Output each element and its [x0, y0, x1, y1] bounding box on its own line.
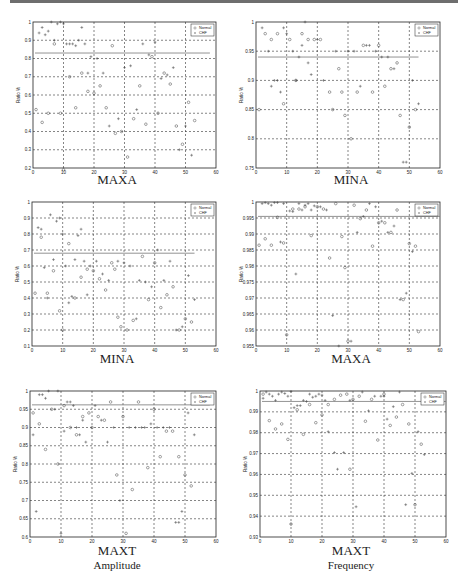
svg-text:0.65: 0.65: [19, 516, 28, 521]
svg-text:1: 1: [255, 389, 258, 394]
series-normal: [262, 393, 423, 526]
svg-text:0.7: 0.7: [25, 74, 32, 79]
scatter-chart: 01020304050600.930.940.950.960.970.980.9…: [234, 385, 468, 547]
svg-text:0.96: 0.96: [245, 328, 254, 333]
scatter-chart: 01020304050600.750.80.850.90.951Ratio %N…: [234, 0, 468, 175]
legend-label: Normal: [199, 26, 211, 30]
svg-text:0.8: 0.8: [24, 232, 31, 237]
series-chf: [32, 390, 196, 535]
y-axis-label: Ratio %: [239, 266, 244, 282]
figure-caption: MAXA: [234, 352, 468, 365]
svg-text:0.6: 0.6: [22, 535, 29, 540]
svg-text:0.98: 0.98: [249, 430, 258, 435]
series-normal: [32, 401, 193, 535]
svg-text:0.4: 0.4: [24, 296, 31, 301]
scatter-chart: 01020304050600.20.30.40.50.60.70.80.91Ra…: [0, 0, 234, 175]
svg-text:0.95: 0.95: [245, 49, 254, 54]
y-axis-label: Ratio %: [16, 87, 21, 103]
grid-lines: [33, 22, 216, 168]
chart-legend: NormalCHF: [421, 393, 444, 405]
svg-text:0.75: 0.75: [245, 166, 254, 171]
legend-label: Normal: [199, 206, 211, 210]
figure-caption: MAXT: [0, 544, 234, 557]
y-axis-label: Ratio %: [15, 266, 20, 282]
svg-text:0.3: 0.3: [25, 147, 32, 152]
legend-label: CHF: [199, 400, 207, 404]
svg-text:1: 1: [28, 20, 31, 25]
legend-label: Normal: [199, 395, 211, 399]
y-axis-label: Ratio %: [13, 456, 18, 472]
svg-text:0.96: 0.96: [249, 472, 258, 477]
scatter-chart: 01020304050600.60.650.70.750.80.850.90.9…: [0, 385, 234, 547]
svg-text:0.2: 0.2: [25, 166, 32, 171]
svg-text:0.9: 0.9: [22, 425, 29, 430]
svg-text:0.5: 0.5: [25, 111, 32, 116]
figure-subcaption: Amplitude: [0, 559, 234, 571]
chart-legend: NormalCHF: [191, 204, 214, 216]
figure-caption: MAXA: [0, 173, 234, 186]
svg-text:0.9: 0.9: [24, 216, 31, 221]
svg-text:0.99: 0.99: [245, 232, 254, 237]
tick-labels: 01020304050600.60.650.70.750.80.850.90.9…: [19, 389, 219, 545]
svg-text:0.995: 0.995: [243, 216, 255, 221]
legend-label: CHF: [423, 211, 431, 215]
figure-caption: MAXT: [234, 544, 468, 557]
chart-legend: NormalCHF: [415, 204, 438, 216]
grid-lines: [260, 391, 446, 537]
svg-text:0.6: 0.6: [25, 93, 32, 98]
svg-text:0.95: 0.95: [19, 407, 28, 412]
svg-text:0.98: 0.98: [245, 264, 254, 269]
svg-text:0.985: 0.985: [243, 248, 255, 253]
chart-legend: NormalCHF: [191, 393, 214, 405]
figure-panel-maxa-2: 01020304050600.9550.960.9650.970.9750.98…: [234, 190, 468, 385]
figure-panel-mina-1: 01020304050600.750.80.850.90.951Ratio %N…: [234, 0, 468, 190]
series-normal: [35, 43, 196, 172]
svg-text:0.9: 0.9: [25, 38, 32, 43]
series-chf: [38, 21, 193, 157]
scatter-chart: 01020304050600.9550.960.9650.970.9750.98…: [234, 190, 468, 355]
legend-label: Normal: [423, 26, 435, 30]
series-normal: [258, 32, 417, 140]
figure-panel-mina-2: 01020304050600.10.20.30.40.50.60.70.80.9…: [0, 190, 234, 385]
y-axis-label: Ratio %: [243, 456, 248, 472]
tick-labels: 01020304050600.750.80.850.90.951: [245, 20, 443, 176]
series-chf: [262, 390, 426, 508]
svg-text:0.6: 0.6: [24, 264, 31, 269]
svg-text:0.8: 0.8: [22, 462, 29, 467]
svg-text:0.975: 0.975: [243, 280, 255, 285]
svg-text:0.9: 0.9: [248, 78, 255, 83]
svg-text:0.93: 0.93: [249, 535, 258, 540]
svg-text:0.97: 0.97: [249, 451, 258, 456]
svg-text:0.1: 0.1: [24, 344, 31, 349]
svg-text:1: 1: [251, 20, 254, 25]
svg-text:0.7: 0.7: [22, 498, 29, 503]
grid-lines: [32, 202, 216, 346]
legend-label: Normal: [429, 395, 441, 399]
figure-panel-maxt-frequency: 01020304050600.930.940.950.960.970.980.9…: [234, 385, 468, 586]
svg-text:1: 1: [251, 200, 254, 205]
figure-panel-maxa-1: 01020304050600.20.30.40.50.60.70.80.91Ra…: [0, 0, 234, 190]
svg-text:0.965: 0.965: [243, 312, 255, 317]
figure-caption: MINA: [0, 352, 234, 365]
figure-panel-maxt-amplitude: 01020304050600.60.650.70.750.80.850.90.9…: [0, 385, 234, 586]
figure-subcaption: Frequency: [234, 559, 468, 571]
svg-text:0.94: 0.94: [249, 514, 258, 519]
series-normal: [258, 202, 420, 342]
series-chf: [261, 201, 414, 347]
y-axis-label: Ratio %: [239, 87, 244, 103]
svg-text:0.4: 0.4: [25, 129, 32, 134]
grid-lines: [256, 22, 440, 168]
svg-text:0.8: 0.8: [25, 56, 32, 61]
chart-legend: NormalCHF: [415, 24, 438, 36]
figure-caption: MINA: [234, 173, 468, 186]
chart-legend: NormalCHF: [191, 24, 214, 36]
svg-text:0.8: 0.8: [248, 136, 255, 141]
series-chf: [37, 213, 196, 331]
scatter-chart: 01020304050600.10.20.30.40.50.60.70.80.9…: [0, 190, 234, 355]
svg-text:0.5: 0.5: [24, 280, 31, 285]
legend-label: CHF: [199, 31, 207, 35]
svg-text:0.3: 0.3: [24, 312, 31, 317]
legend-label: CHF: [199, 211, 207, 215]
legend-label: Normal: [423, 206, 435, 210]
svg-text:0.7: 0.7: [24, 248, 31, 253]
